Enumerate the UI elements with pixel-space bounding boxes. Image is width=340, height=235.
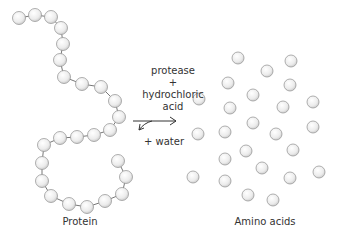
amino-acid xyxy=(284,79,296,91)
amino-acid xyxy=(187,171,199,183)
protein-bead xyxy=(71,131,84,144)
protein-bead xyxy=(120,171,133,184)
amino-acid xyxy=(219,175,231,187)
amino-acid xyxy=(219,126,231,138)
amino-acid xyxy=(219,153,231,165)
protein-label: Protein xyxy=(40,216,120,228)
amino-acid xyxy=(247,117,259,129)
protein-bead xyxy=(45,11,58,24)
peptide-bond-line xyxy=(19,15,126,207)
protein-bead xyxy=(104,124,117,137)
amino-acid xyxy=(284,172,296,184)
amino-acid xyxy=(313,166,325,178)
reaction-arrow xyxy=(133,117,176,130)
amino-acid xyxy=(307,121,319,133)
protein-bead xyxy=(57,38,70,51)
protein-bead xyxy=(55,22,68,35)
protein-bead xyxy=(38,139,51,152)
protein-bead xyxy=(29,9,42,22)
water-label: + water xyxy=(134,136,194,148)
protein-bead xyxy=(36,175,49,188)
amino-acid xyxy=(285,55,297,67)
protein-bead xyxy=(81,201,94,214)
protein-bead xyxy=(88,129,101,142)
protein-bead xyxy=(116,188,129,201)
acid-label-line1: hydrochloric xyxy=(118,89,228,101)
protein-bead xyxy=(13,12,26,25)
protein-bead xyxy=(36,157,49,170)
amino-acid xyxy=(261,65,273,77)
protein-bead xyxy=(58,71,71,84)
protein-bead xyxy=(95,81,108,94)
amino-acid xyxy=(256,162,268,174)
amino-acid xyxy=(267,194,279,206)
amino-acid xyxy=(307,96,319,108)
protein-chain xyxy=(13,9,133,214)
amino-acid xyxy=(287,144,299,156)
amino-acid xyxy=(242,189,254,201)
protein-bead xyxy=(99,195,112,208)
protein-bead xyxy=(112,155,125,168)
amino-acid xyxy=(277,101,289,113)
amino-acids-label: Amino acids xyxy=(210,216,320,228)
protein-bead xyxy=(54,54,67,67)
amino-acid xyxy=(247,89,259,101)
protein-bead xyxy=(45,190,58,203)
protein-bead xyxy=(54,132,67,145)
reaction-conditions: protease + hydrochloric acid xyxy=(118,65,228,113)
enzyme-label: protease xyxy=(118,65,228,77)
plus-sign: + xyxy=(118,77,228,89)
amino-acid xyxy=(232,52,244,64)
protein-bead xyxy=(63,198,76,211)
protein-to-amino-acids-diagram xyxy=(0,0,340,235)
amino-acid xyxy=(240,145,252,157)
amino-acid xyxy=(270,128,282,140)
acid-label-line2: acid xyxy=(118,101,228,113)
protein-bead xyxy=(76,78,89,91)
